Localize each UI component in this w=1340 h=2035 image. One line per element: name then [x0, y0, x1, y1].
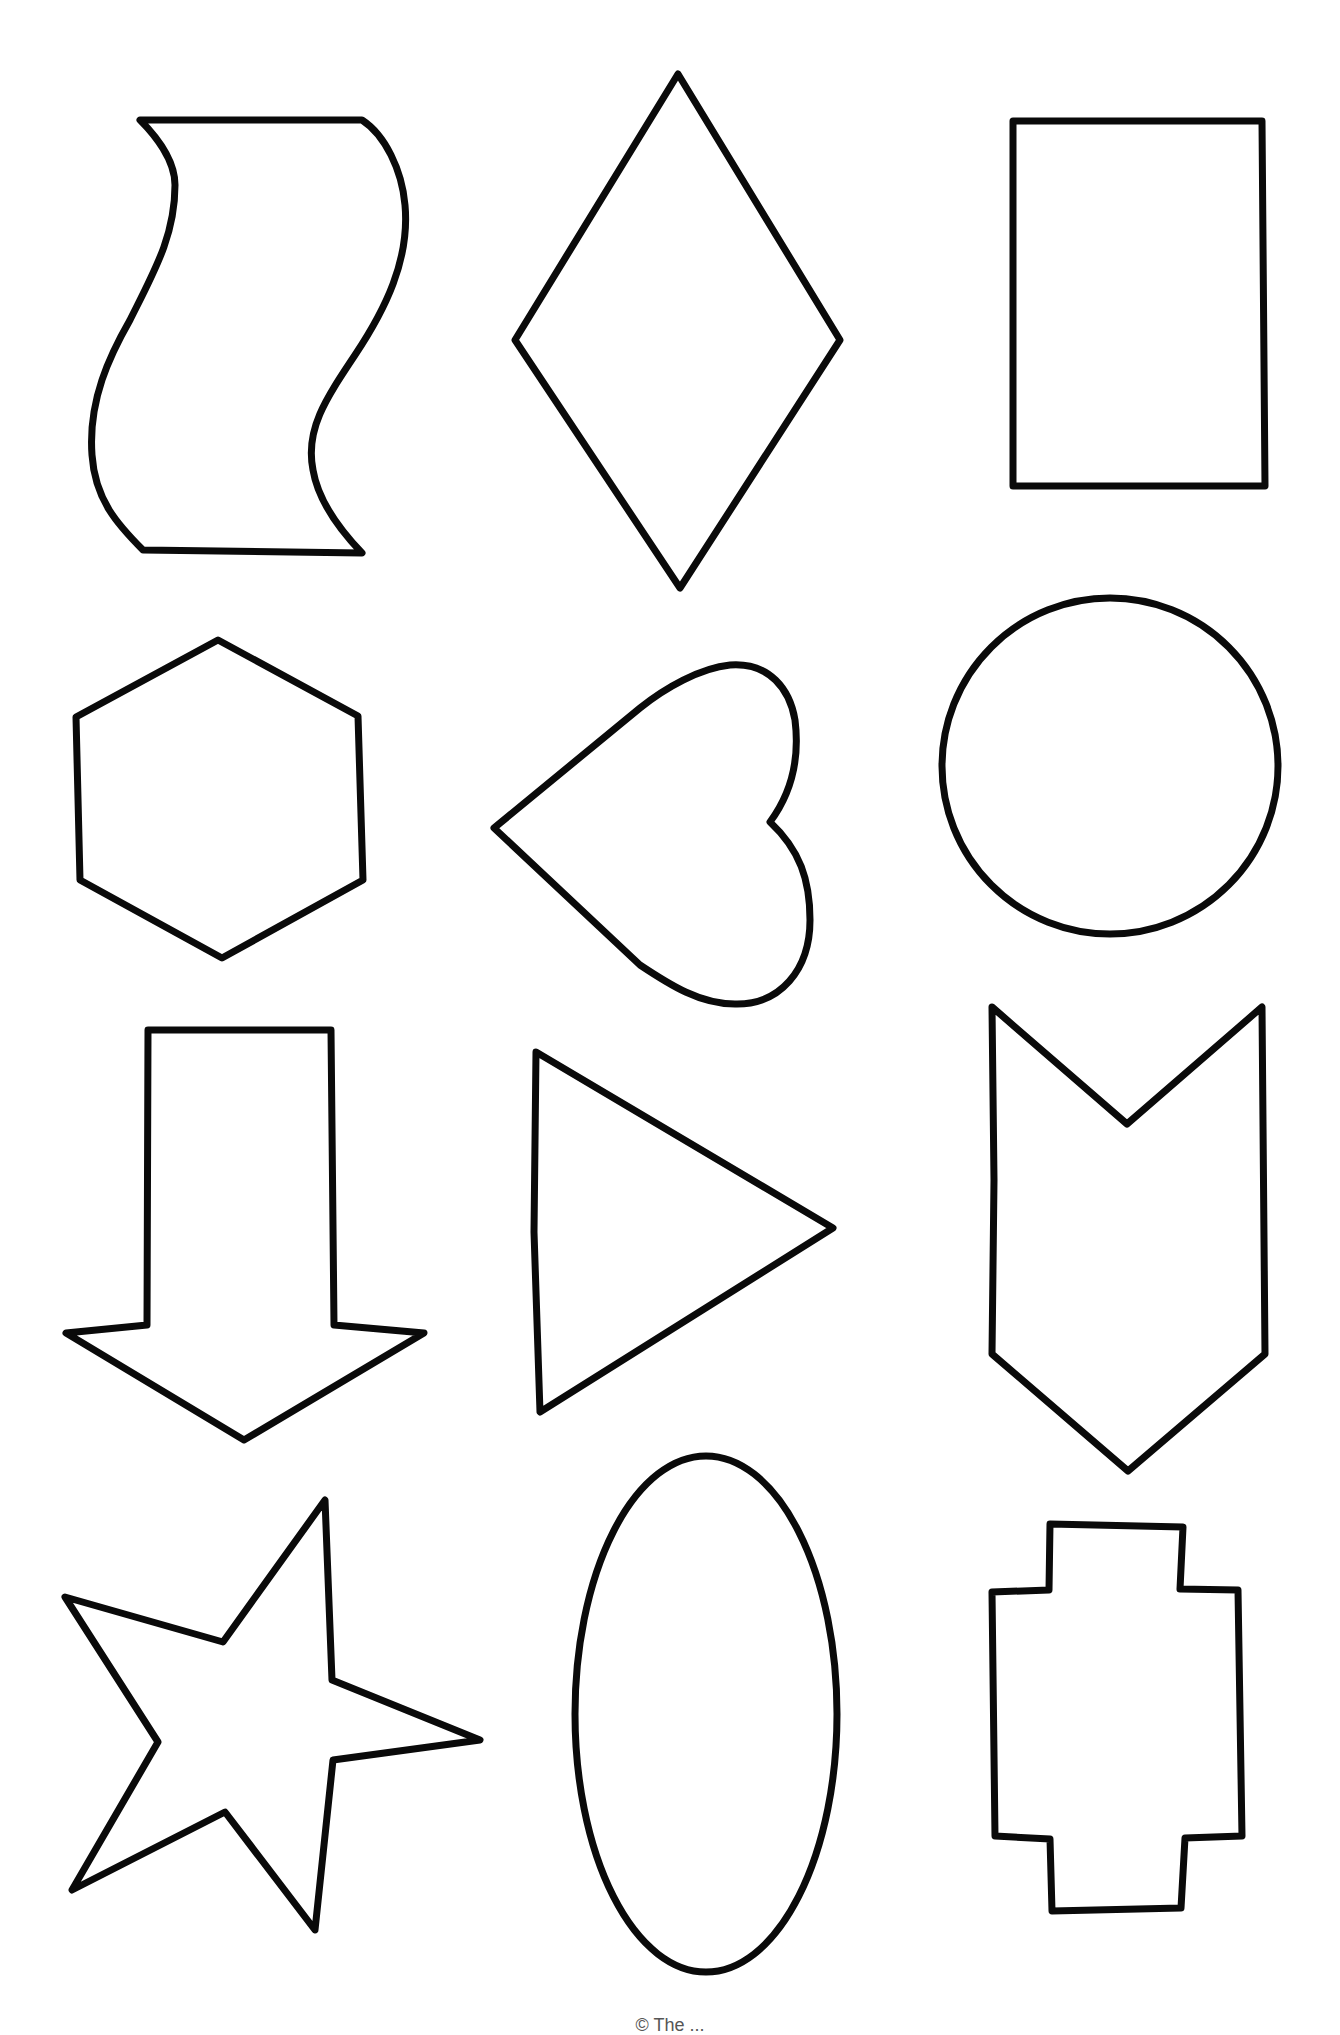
star-shape: [65, 1500, 480, 1930]
heart-shape: [494, 665, 810, 1004]
oval-shape: [575, 1456, 837, 1972]
circle-shape: [942, 598, 1278, 934]
down-arrow-shape: [66, 1030, 424, 1440]
chevron-banner-shape: [992, 1007, 1265, 1471]
hexagon-shape: [76, 640, 363, 958]
plus-cross-shape: [992, 1524, 1242, 1911]
wavy-banner-shape: [92, 120, 406, 553]
triangle-shape: [534, 1052, 833, 1412]
rectangle-shape: [1013, 121, 1265, 486]
diamond-shape: [515, 74, 840, 588]
copyright-footer: © The ...: [0, 2016, 1340, 2034]
